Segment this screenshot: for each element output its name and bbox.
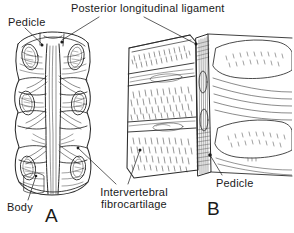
label-posterior-longitudinal-ligament: Posterior longitudinal ligament	[71, 2, 225, 14]
label-intervertebral-line1: Intervertebral	[100, 186, 168, 198]
figure-letter-a: A	[45, 205, 58, 227]
label-intervertebral-fibrocartilage: Intervertebral fibrocartilage	[86, 186, 182, 210]
label-intervertebral-line2: fibrocartilage	[101, 198, 167, 210]
label-pedicle-right: Pedicle	[216, 177, 253, 189]
anatomical-figure: Posterior longitudinal ligament Pedicle …	[0, 0, 294, 233]
figure-b-drawing	[127, 34, 292, 178]
figure-letter-b: B	[207, 198, 220, 220]
leader-lines	[25, 17, 222, 200]
label-pedicle-left: Pedicle	[8, 16, 45, 28]
figure-a-drawing	[15, 32, 91, 195]
label-body: Body	[7, 201, 33, 213]
